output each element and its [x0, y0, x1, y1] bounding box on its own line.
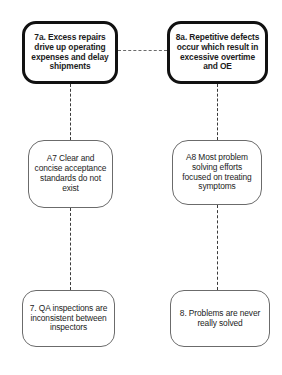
connector-a7-to-7: [70, 208, 71, 290]
connector-7a-to-a7: [70, 84, 71, 140]
diagram-canvas: 7a. Excess repairs drive up operating ex…: [0, 0, 282, 375]
node-assumption-a7[interactable]: A7 Clear and concise acceptance standard…: [28, 140, 113, 208]
connector-a8-to-8: [217, 205, 218, 290]
node-assumption-a8[interactable]: A8 Most problem solving efforts focused …: [172, 140, 262, 205]
node-cause-8[interactable]: 8. Problems are never really solved: [170, 290, 270, 347]
connector-8a-to-a8: [217, 84, 218, 140]
node-effect-8a[interactable]: 8a. Repetitive defects occur which resul…: [167, 21, 268, 84]
node-cause-7[interactable]: 7. QA inspections are inconsistent betwe…: [22, 290, 115, 347]
connector-7a-to-8a: [118, 50, 167, 51]
node-effect-7a[interactable]: 7a. Excess repairs drive up operating ex…: [22, 21, 118, 84]
